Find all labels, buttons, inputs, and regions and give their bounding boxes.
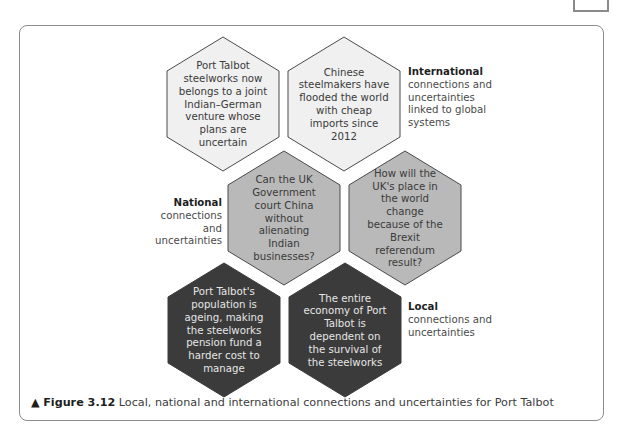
hexagon-text-national-2: How will the UK's place in the world cha… (365, 168, 445, 270)
hexagon-text-national-1: Can the UK Government court China withou… (245, 168, 323, 270)
hexagon-text-international-2: Chinese steelmakers have flooded the wor… (298, 55, 390, 155)
figure-number: Figure 3.12 (43, 396, 115, 409)
label-international: International connections and uncertaint… (408, 66, 508, 130)
hexagon-text-local-1: Port Talbot's population is ageing, maki… (183, 280, 265, 382)
figure-caption-text: Local, national and international connec… (119, 396, 554, 409)
figure-caption: ▲ Figure 3.12 Local, national and intern… (31, 396, 554, 409)
label-national: National connections and uncertainties (140, 197, 222, 248)
triangle-marker-icon: ▲ (31, 396, 40, 409)
hexagon-text-international-1: Port Talbot steelworks now belongs to a … (175, 55, 271, 155)
label-local: Local connections and uncertainties (408, 301, 504, 339)
hexagon-text-local-2: The entire economy of Port Talbot is dep… (302, 280, 388, 382)
